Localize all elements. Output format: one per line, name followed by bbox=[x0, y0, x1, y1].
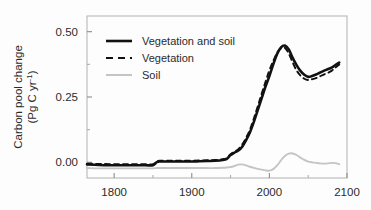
y-axis-title-line2: (Pg C yr-1) bbox=[25, 70, 38, 123]
carbon-pool-change-chart: 0.000.250.50 1800190020002100 Carbon poo… bbox=[0, 0, 371, 210]
y-axis-tick-labels: 0.000.250.50 bbox=[56, 26, 78, 169]
figure-container: 0.000.250.50 1800190020002100 Carbon poo… bbox=[0, 0, 371, 210]
x-tick-label: 1900 bbox=[179, 186, 205, 198]
legend-label-soil: Soil bbox=[142, 69, 160, 81]
x-axis-tick-labels: 1800190020002100 bbox=[101, 186, 359, 198]
y-tick-label: 0.25 bbox=[56, 91, 78, 103]
x-tick-label: 2100 bbox=[334, 186, 360, 198]
x-tick-label: 2000 bbox=[257, 186, 283, 198]
y-axis-ticks bbox=[87, 32, 92, 163]
x-tick-label: 1800 bbox=[101, 186, 127, 198]
chart-legend: Vegetation and soilVegetationSoil bbox=[106, 35, 235, 81]
y-tick-label: 0.50 bbox=[56, 26, 78, 38]
series-line-vegetation bbox=[87, 47, 339, 164]
y-tick-label: 0.00 bbox=[56, 156, 78, 168]
y-axis-title-unit-post: ) bbox=[26, 70, 38, 74]
legend-label-vegetation-and-soil: Vegetation and soil bbox=[142, 35, 235, 47]
y-axis-title-line1: Carbon pool change bbox=[12, 45, 24, 149]
y-axis-title: Carbon pool change (Pg C yr-1) bbox=[12, 45, 38, 149]
legend-label-vegetation: Vegetation bbox=[142, 52, 194, 64]
y-axis-title-unit-pre: (Pg C yr bbox=[26, 81, 38, 123]
series-line-vegetation-and-soil bbox=[87, 45, 339, 165]
data-series-layer bbox=[87, 45, 339, 170]
x-axis-ticks bbox=[114, 173, 347, 178]
